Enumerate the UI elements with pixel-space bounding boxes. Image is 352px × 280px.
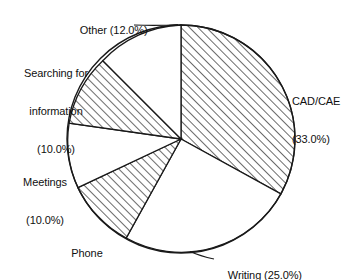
- pie-chart-figure: Other (12.0%) Searching for information …: [0, 0, 352, 280]
- pie-label-writing: Writing (25.0%): [216, 256, 302, 280]
- pie-label-other-text: Other (12.0%): [80, 24, 148, 36]
- pie-label-meetings-line-1: Meetings: [9, 176, 81, 189]
- pie-label-searching-line-2: information: [8, 105, 104, 118]
- pie-label-cad-line-2: (33.0%): [292, 133, 350, 146]
- pie-label-cad-cae: CAD/CAE (33.0%): [292, 70, 350, 171]
- pie-label-searching-line-1: Searching for: [8, 67, 104, 80]
- pie-label-writing-text: Writing (25.0%): [228, 269, 302, 280]
- pie-label-phone-calls: Phone calls (10.0%): [56, 222, 118, 280]
- pie-label-cad-line-1: CAD/CAE: [292, 95, 350, 108]
- leader-line-writing: [190, 252, 214, 260]
- pie-label-phone-line-1: Phone: [56, 247, 118, 260]
